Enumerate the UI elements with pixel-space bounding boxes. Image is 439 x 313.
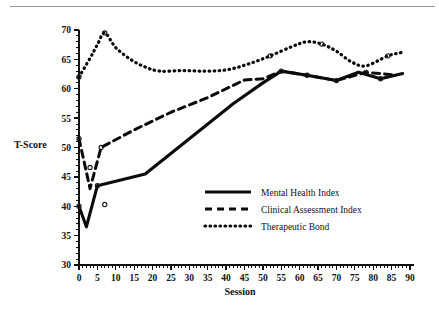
y-tick-label: 30 bbox=[62, 260, 72, 270]
y-axis-title: T-Score bbox=[14, 139, 47, 150]
x-tick-label: 30 bbox=[185, 273, 195, 283]
x-tick-label: 15 bbox=[129, 273, 139, 283]
data-series-group bbox=[79, 33, 403, 227]
chart-legend: Mental Health IndexClinical Assessment I… bbox=[205, 188, 362, 232]
x-tick-label: 0 bbox=[77, 273, 82, 283]
y-tick-marks bbox=[74, 30, 79, 265]
x-tick-label: 5 bbox=[95, 273, 100, 283]
line-chart: 303540455055606570 051015202530354045505… bbox=[0, 0, 439, 313]
x-tick-label: 10 bbox=[111, 273, 121, 283]
x-tick-label: 45 bbox=[240, 273, 250, 283]
y-tick-label: 65 bbox=[62, 55, 72, 65]
x-tick-label: 35 bbox=[203, 273, 213, 283]
y-axis-group: 303540455055606570 bbox=[62, 25, 80, 270]
x-tick-label: 75 bbox=[350, 273, 360, 283]
x-axis-group: 051015202530354045505560657075808590 bbox=[77, 265, 415, 283]
x-tick-label: 60 bbox=[295, 273, 305, 283]
x-tick-label: 65 bbox=[313, 273, 323, 283]
x-tick-label: 70 bbox=[332, 273, 342, 283]
x-tick-label: 80 bbox=[368, 273, 378, 283]
x-tick-label: 40 bbox=[221, 273, 231, 283]
x-axis-title: Session bbox=[224, 286, 256, 297]
y-tick-label: 55 bbox=[62, 114, 72, 124]
y-tick-label: 70 bbox=[62, 25, 72, 35]
data-point-marker bbox=[103, 202, 107, 206]
series-path-dotted bbox=[79, 33, 403, 77]
y-tick-label: 45 bbox=[62, 172, 72, 182]
x-tick-label: 20 bbox=[148, 273, 158, 283]
y-tick-label: 50 bbox=[62, 143, 72, 153]
y-tick-label: 40 bbox=[62, 202, 72, 212]
data-point-markers bbox=[77, 31, 390, 209]
x-tick-label: 50 bbox=[258, 273, 268, 283]
series-path-solid bbox=[79, 71, 403, 227]
x-tick-label: 85 bbox=[387, 273, 397, 283]
x-tick-label: 90 bbox=[405, 273, 415, 283]
legend-label: Therapeutic Bond bbox=[261, 222, 330, 232]
legend-label: Mental Health Index bbox=[261, 188, 340, 198]
y-tick-label: 60 bbox=[62, 84, 72, 94]
x-tick-label: 55 bbox=[277, 273, 287, 283]
x-tick-labels: 051015202530354045505560657075808590 bbox=[77, 273, 415, 283]
series-path-dashed bbox=[79, 71, 392, 189]
figure-container: 303540455055606570 051015202530354045505… bbox=[0, 0, 439, 313]
y-tick-labels: 303540455055606570 bbox=[62, 25, 72, 270]
data-point-marker bbox=[88, 165, 92, 169]
legend-label: Clinical Assessment Index bbox=[261, 205, 362, 215]
x-tick-label: 25 bbox=[166, 273, 176, 283]
y-tick-label: 35 bbox=[62, 231, 72, 241]
